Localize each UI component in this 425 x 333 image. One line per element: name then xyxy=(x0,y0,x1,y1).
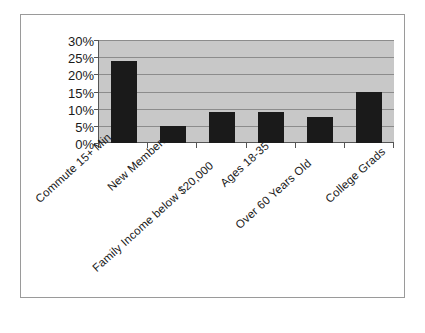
x-category-label-college-grads: College Grads xyxy=(323,145,388,205)
x-category-label-new-members: New Members xyxy=(105,133,170,193)
x-category-label-family-income-below-20000: Family Income below $20,000 xyxy=(90,159,216,274)
x-axis-category-labels: Commute 15+ Min New Members Family Incom… xyxy=(0,0,425,333)
x-category-label-commute-15-plus-min: Commute 15+ Min xyxy=(33,131,113,205)
x-category-label-ages-18-35: Ages 18-35 xyxy=(218,139,271,189)
bar-chart-figure: 30% 25% 20% 15% 10% 5% 0% xyxy=(0,0,425,333)
